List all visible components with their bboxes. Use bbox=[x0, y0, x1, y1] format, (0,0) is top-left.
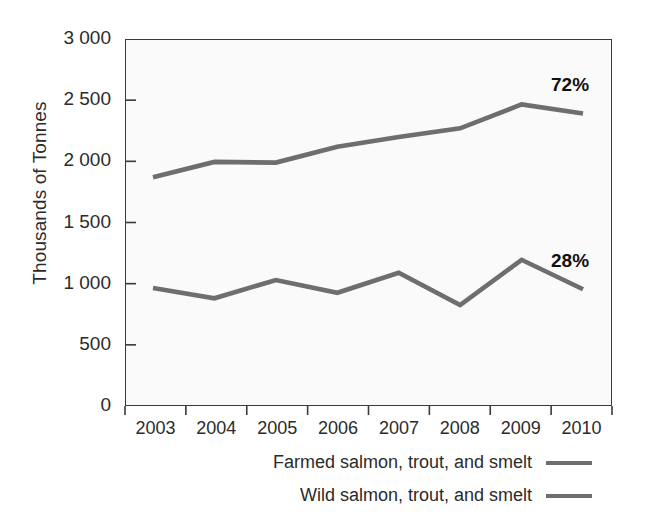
series-line-farmed bbox=[153, 104, 583, 177]
x-axis-ticks bbox=[125, 406, 612, 415]
x-axis-tick-label: 2004 bbox=[186, 418, 247, 439]
legend-label: Farmed salmon, trout, and smelt bbox=[273, 452, 532, 473]
x-axis-tick-label: 2006 bbox=[308, 418, 369, 439]
legend-item-wild: Wild salmon, trout, and smelt bbox=[0, 485, 592, 506]
x-axis-tick-label: 2009 bbox=[490, 418, 551, 439]
x-axis-tick-label: 2010 bbox=[551, 418, 612, 439]
legend-line-swatch bbox=[546, 494, 592, 498]
y-axis-ticks bbox=[125, 100, 136, 345]
y-axis-tick-label: 0 bbox=[21, 394, 111, 416]
data-annotation-label: 72% bbox=[551, 74, 589, 96]
chart-figure: 3 0002 5002 0001 5001 0005000Thousands o… bbox=[0, 0, 650, 524]
x-axis-tick-label: 2008 bbox=[429, 418, 490, 439]
y-axis-title: Thousands of Tonnes bbox=[29, 43, 51, 343]
legend-line-swatch bbox=[546, 461, 592, 465]
x-axis-tick-label: 2007 bbox=[369, 418, 430, 439]
x-axis-tick-label: 2003 bbox=[125, 418, 186, 439]
series-line-wild bbox=[153, 260, 583, 305]
legend-label: Wild salmon, trout, and smelt bbox=[300, 485, 532, 506]
legend-item-farmed: Farmed salmon, trout, and smelt bbox=[0, 452, 592, 473]
x-axis-tick-label: 2005 bbox=[247, 418, 308, 439]
data-annotation-label: 28% bbox=[551, 250, 589, 272]
